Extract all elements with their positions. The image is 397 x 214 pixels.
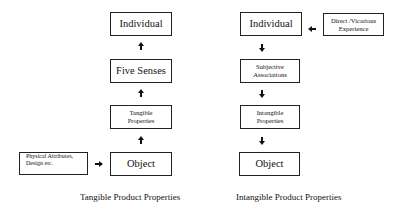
arrow-up-icon	[137, 89, 145, 97]
box-label: Physical Attributes,	[26, 153, 73, 160]
box-label: Design etc.	[26, 160, 53, 167]
box-label: Direct /Vicarious	[331, 17, 376, 25]
intangible-object-box: Object	[239, 152, 300, 176]
box-label: Five Senses	[116, 65, 166, 77]
box-label: Individual	[249, 18, 292, 30]
box-label: Subjective	[256, 63, 284, 71]
subjective-associations-box: Subjective Associations	[240, 59, 300, 83]
tangible-object-box: Object	[110, 152, 172, 176]
tangible-properties-box: Tangible Properties	[110, 105, 172, 129]
arrow-down-icon	[258, 90, 266, 98]
tangible-five-senses-box: Five Senses	[110, 59, 172, 83]
arrow-down-icon	[258, 44, 266, 52]
box-label: Object	[256, 158, 284, 170]
box-label: Individual	[119, 18, 162, 30]
box-label: Associations	[253, 71, 287, 79]
tangible-individual-box: Individual	[110, 12, 172, 36]
box-label: Intangible	[257, 109, 284, 117]
tangible-caption: Tangible Product Properties	[80, 192, 180, 202]
box-label: Tangible	[130, 109, 153, 117]
physical-attributes-box: Physical Attributes, Design etc.	[19, 152, 88, 175]
box-label: Properties	[257, 117, 284, 125]
arrow-up-icon	[137, 136, 145, 144]
arrow-up-icon	[137, 42, 145, 50]
intangible-individual-box: Individual	[240, 12, 302, 36]
arrow-down-icon	[258, 137, 266, 145]
arrow-left-icon	[308, 25, 316, 33]
box-label: Properties	[128, 117, 155, 125]
intangible-caption: Intangible Product Properties	[236, 192, 341, 202]
box-label: Experience	[339, 25, 369, 33]
direct-vicarious-experience-box: Direct /Vicarious Experience	[323, 13, 384, 36]
arrow-right-icon	[95, 160, 103, 168]
box-label: Object	[127, 158, 155, 170]
intangible-properties-box: Intangible Properties	[240, 105, 300, 129]
